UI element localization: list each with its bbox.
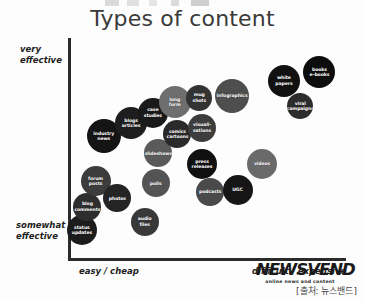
bubble-videos: videos <box>247 149 277 179</box>
bubble-books-e-books: books e-books <box>303 56 335 88</box>
plot-area: very effective somewhat effective easy /… <box>0 34 365 266</box>
newsvend-logo: NEWSVEND online news and content <box>256 262 344 285</box>
y-axis-bottom-label: somewhat effective <box>16 220 65 242</box>
bubble-audio-files: audio files <box>131 208 159 236</box>
bubble-mug-shots: mug shots <box>186 85 212 111</box>
chart-screenshot: Types of content very effective somewhat… <box>0 0 365 302</box>
bubble-visuali--sations: visuali- sations <box>188 114 216 142</box>
bubble-polls: polls <box>142 169 170 197</box>
bubble-podcasts: podcasts <box>196 178 224 206</box>
x-axis-left-label: easy / cheap <box>79 266 139 277</box>
page-title: Types of content <box>0 6 365 31</box>
bubble-blog-comments: blog comments <box>73 193 101 221</box>
bubble-comics-cartoons: comics cartoons <box>163 120 191 148</box>
bubble-photos: photos <box>103 184 131 212</box>
newsvend-wordmark: NEWSVEND <box>256 262 344 278</box>
bubble-press-releases: press releases <box>187 149 217 179</box>
bubble-infographics: infographics <box>215 79 249 113</box>
bubble-ugc: UGC <box>223 175 253 205</box>
bubble-white-papers: white papers <box>268 65 300 97</box>
source-credit: [출처: 뉴스밴드] <box>0 284 357 297</box>
y-axis-top-label: very effective <box>20 44 62 66</box>
bubble-viral-campaigns: viral campaigns <box>287 93 313 119</box>
